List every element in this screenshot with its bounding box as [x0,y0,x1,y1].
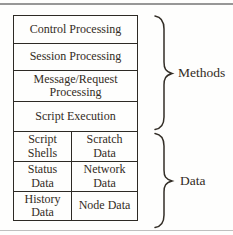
data-cell-label: History Data [17,193,69,220]
method-row-label: Message/Request Processing [14,73,137,100]
protocol-architecture-box: Control Processing Session Processing Me… [13,15,138,221]
data-cell-script-shells: Script Shells [14,132,72,161]
methods-brace [155,16,172,130]
data-cell-network-data: Network Data [72,162,137,191]
data-cell-label: Scratch Data [79,133,131,160]
data-grid-row-1: Script Shells Scratch Data [14,132,137,162]
data-grid-row-2: Status Data Network Data [14,162,137,192]
data-cell-label: Status Data [17,163,69,190]
method-row-session-processing: Session Processing [14,44,137,71]
method-row-message-request-processing: Message/Request Processing [14,71,137,102]
braces-overlay [148,0,233,235]
data-brace-label: Data [180,174,205,188]
data-cell-label: Node Data [79,199,131,213]
data-cell-label: Script Shells [17,133,69,160]
method-row-label: Session Processing [30,50,122,64]
method-row-label: Script Execution [35,110,115,124]
data-cell-status-data: Status Data [14,162,72,191]
data-cell-history-data: History Data [14,192,72,220]
bottom-rule [0,230,233,231]
data-brace [155,134,172,228]
methods-brace-label: Methods [178,66,225,80]
data-cell-scratch-data: Scratch Data [72,132,137,161]
data-cell-node-data: Node Data [72,192,137,220]
method-row-control-processing: Control Processing [14,16,137,44]
method-row-script-execution: Script Execution [14,102,137,132]
data-grid-row-3: History Data Node Data [14,192,137,220]
diagram-page: Control Processing Session Processing Me… [0,0,233,235]
method-row-label: Control Processing [30,23,122,37]
data-cell-label: Network Data [79,163,131,190]
